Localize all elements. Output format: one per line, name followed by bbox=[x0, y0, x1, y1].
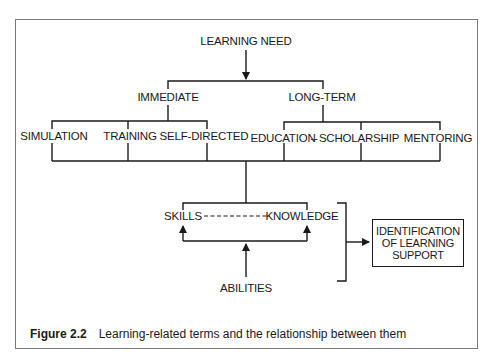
skills-knowledge-bracket bbox=[183, 203, 307, 210]
knowledge-label: KNOWLEDGE bbox=[266, 211, 339, 223]
root-label: LEARNING NEED bbox=[200, 36, 291, 48]
long-term-bracket bbox=[284, 122, 440, 130]
simulation-label: SIMULATION bbox=[20, 131, 87, 143]
skills-label: SKILLS bbox=[164, 211, 202, 223]
immediate-label: IMMEDIATE bbox=[137, 92, 198, 104]
mentoring-label: MENTORING bbox=[404, 133, 472, 145]
top-bracket bbox=[168, 81, 323, 89]
caption-text: Learning-related terms and the relations… bbox=[99, 327, 407, 341]
abilities-label: ABILITIES bbox=[220, 283, 272, 295]
self-directed-label: SELF-DIRECTED bbox=[160, 131, 249, 143]
scholarship-label: SCHOLARSHIP bbox=[319, 133, 399, 145]
education-label: EDUCATION bbox=[250, 133, 315, 145]
box-line-2: OF LEARNING bbox=[382, 237, 454, 249]
diagram-connectors bbox=[0, 0, 490, 362]
training-label: TRAINING bbox=[103, 131, 156, 143]
figure-number: Figure 2.2 bbox=[30, 327, 87, 341]
identification-of-learning-support-box: IDENTIFICATION OF LEARNING SUPPORT bbox=[372, 219, 464, 267]
long-term-label: LONG-TERM bbox=[288, 92, 355, 104]
education-scholarship-link: -- bbox=[310, 133, 317, 145]
box-line-3: SUPPORT bbox=[392, 249, 444, 261]
box-line-1: IDENTIFICATION bbox=[376, 225, 460, 237]
immediate-bracket bbox=[52, 121, 207, 129]
figure-caption: Figure 2.2Learning-related terms and the… bbox=[30, 327, 406, 341]
